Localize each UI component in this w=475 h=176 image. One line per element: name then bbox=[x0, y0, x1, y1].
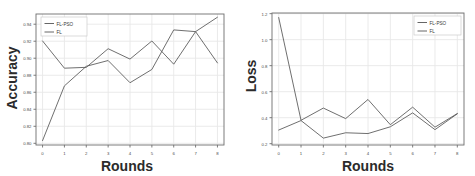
y-tick-label: 0.2 bbox=[261, 142, 268, 147]
y-tick-label: 0.80 bbox=[23, 141, 32, 146]
accuracy-x-axis-title: Rounds bbox=[101, 158, 153, 174]
y-tick-label: 0.92 bbox=[23, 39, 32, 44]
accuracy-legend: FL-PSOFL bbox=[41, 17, 87, 36]
accuracy-plot-svg: 012345678 0.800.820.840.860.880.900.920.… bbox=[0, 0, 238, 176]
y-tick-label: 0.8 bbox=[261, 64, 268, 69]
y-tick-label: 0.84 bbox=[23, 107, 32, 112]
loss-x-axis-title: Rounds bbox=[341, 158, 393, 174]
y-tick-label: 0.86 bbox=[23, 90, 32, 95]
loss-legend: FL-PSOFL bbox=[414, 16, 461, 35]
y-tick-label: 0.6 bbox=[261, 90, 268, 95]
accuracy-y-axis-title: Accuracy bbox=[4, 46, 20, 109]
y-tick-label: 1.2 bbox=[261, 12, 268, 17]
y-tick-label: 0.94 bbox=[23, 22, 32, 27]
legend-entry-fl-pso: FL-PSO bbox=[429, 21, 446, 26]
loss-y-axis-title: Loss bbox=[243, 59, 259, 92]
loss-chart-panel: 012345678 0.20.40.60.81.01.2 FL-PSOFL Ro… bbox=[238, 0, 475, 176]
legend-entry-fl: FL bbox=[429, 29, 435, 34]
accuracy-chart-panel: 012345678 0.800.820.840.860.880.900.920.… bbox=[0, 0, 238, 176]
y-tick-label: 0.4 bbox=[261, 116, 268, 121]
loss-plot-svg: 012345678 0.20.40.60.81.01.2 FL-PSOFL Ro… bbox=[238, 0, 475, 176]
legend-entry-fl: FL bbox=[57, 30, 63, 35]
y-tick-label: 0.88 bbox=[23, 73, 32, 78]
legend-entry-fl-pso: FL-PSO bbox=[57, 22, 74, 27]
y-tick-label: 1.0 bbox=[261, 38, 268, 43]
figure-container: 012345678 0.800.820.840.860.880.900.920.… bbox=[0, 0, 475, 176]
y-tick-label: 0.90 bbox=[23, 56, 32, 61]
y-tick-label: 0.82 bbox=[23, 124, 32, 129]
